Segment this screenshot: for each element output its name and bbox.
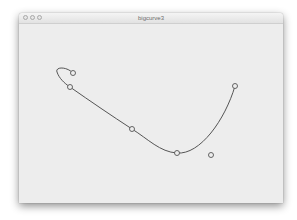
control-point-3[interactable]: [130, 127, 135, 132]
window-title: bigcurve3: [19, 13, 283, 23]
bezier-curve-drawing[interactable]: [19, 24, 283, 203]
title-bar[interactable]: bigcurve3: [19, 13, 283, 24]
control-point-1[interactable]: [71, 71, 76, 76]
control-point-2[interactable]: [68, 85, 73, 90]
free-control-point[interactable]: [209, 153, 214, 158]
control-point-5[interactable]: [233, 84, 238, 89]
curve-path: [57, 68, 235, 153]
app-window: bigcurve3: [19, 13, 283, 203]
drawing-canvas[interactable]: [19, 24, 283, 203]
control-point-4[interactable]: [175, 151, 180, 156]
